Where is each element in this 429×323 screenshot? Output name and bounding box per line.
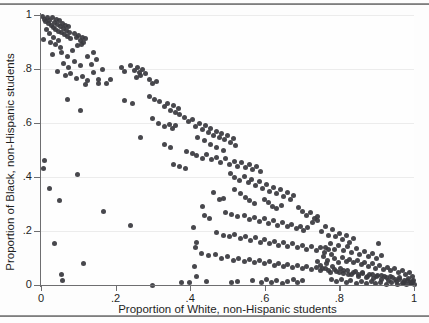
- y-axis-label-container: Proportion of Black, non-Hispanic studen…: [0, 0, 21, 323]
- data-point: [336, 243, 341, 248]
- data-point: [207, 216, 212, 221]
- data-point: [223, 210, 228, 215]
- data-point: [211, 190, 216, 195]
- data-point: [279, 203, 284, 208]
- data-point: [214, 155, 219, 160]
- data-point: [60, 278, 65, 283]
- x-tick-mark: [339, 285, 340, 291]
- data-point: [242, 213, 247, 218]
- data-point: [65, 97, 70, 102]
- data-point: [214, 129, 219, 134]
- data-point: [162, 142, 167, 147]
- data-point: [266, 221, 271, 226]
- y-axis-line: [40, 13, 41, 287]
- y-tick-mark: [34, 69, 40, 70]
- y-tick-mark: [34, 15, 40, 16]
- data-point: [247, 257, 252, 262]
- data-point: [338, 266, 343, 271]
- data-point: [354, 246, 359, 251]
- data-point: [199, 251, 204, 256]
- data-point: [231, 136, 236, 141]
- data-point: [281, 194, 286, 199]
- data-point: [78, 108, 83, 113]
- data-point: [271, 218, 276, 223]
- data-point: [243, 234, 248, 239]
- data-point: [236, 256, 241, 261]
- data-point: [410, 274, 415, 279]
- data-point: [349, 250, 354, 255]
- data-point: [328, 241, 333, 246]
- data-point: [42, 158, 47, 163]
- data-point: [156, 121, 161, 126]
- data-point: [300, 278, 305, 283]
- data-point: [59, 50, 64, 55]
- data-point: [195, 135, 200, 140]
- data-point: [257, 219, 262, 224]
- data-point: [348, 278, 353, 283]
- figure-scatter-plot: Proportion of Black, non-Hispanic studen…: [0, 0, 429, 323]
- data-point: [200, 204, 205, 209]
- data-point: [184, 149, 189, 154]
- data-point: [177, 164, 182, 169]
- y-tick-label: .4: [16, 170, 32, 182]
- data-point: [339, 277, 344, 282]
- data-point: [258, 169, 263, 174]
- data-point: [271, 185, 276, 190]
- y-tick-label: .2: [16, 224, 32, 236]
- data-point: [100, 67, 105, 72]
- data-point: [249, 177, 254, 182]
- data-point: [74, 76, 79, 81]
- data-point: [233, 143, 238, 148]
- y-axis-label: Proportion of Black, non-Hispanic studen…: [4, 53, 16, 270]
- gridline-y: [41, 69, 414, 70]
- x-tick-mark: [41, 285, 42, 291]
- data-point: [362, 249, 367, 254]
- gridline-y: [41, 15, 414, 16]
- data-point: [203, 123, 208, 128]
- y-tick-label: 0: [16, 278, 32, 290]
- data-point: [162, 124, 167, 129]
- data-point: [80, 74, 85, 79]
- data-point: [61, 61, 66, 66]
- y-tick-mark: [34, 177, 40, 178]
- data-point: [78, 63, 83, 68]
- data-point: [173, 123, 178, 128]
- data-point: [340, 237, 345, 242]
- data-point: [231, 258, 236, 263]
- data-point: [214, 145, 219, 150]
- data-point: [252, 201, 257, 206]
- y-tick-label: .8: [16, 62, 32, 74]
- data-point: [308, 210, 313, 215]
- gridline-y: [41, 123, 414, 124]
- data-point: [221, 148, 226, 153]
- data-point: [53, 42, 58, 47]
- data-point: [319, 229, 324, 234]
- plot-background: [41, 15, 414, 285]
- data-point: [320, 266, 325, 271]
- y-tick-mark: [34, 123, 40, 124]
- x-tick-mark: [116, 285, 117, 291]
- data-point: [242, 174, 247, 179]
- data-point: [50, 52, 55, 57]
- data-point: [289, 222, 294, 227]
- data-point: [262, 216, 267, 221]
- data-point: [128, 223, 133, 228]
- data-point: [89, 62, 94, 67]
- data-point: [147, 94, 152, 99]
- gridline-y: [41, 231, 414, 232]
- data-point: [191, 225, 196, 230]
- data-point: [341, 248, 346, 253]
- data-point: [65, 54, 70, 59]
- data-point: [91, 70, 96, 75]
- data-point: [208, 142, 213, 147]
- data-point: [176, 106, 181, 111]
- data-point: [72, 59, 77, 64]
- plot-area: [41, 15, 414, 285]
- gridline-y: [41, 177, 414, 178]
- x-tick-mark: [265, 285, 266, 291]
- data-point: [227, 162, 232, 167]
- data-point: [252, 215, 257, 220]
- data-point: [221, 196, 226, 201]
- data-point: [75, 43, 80, 48]
- data-point: [108, 77, 113, 82]
